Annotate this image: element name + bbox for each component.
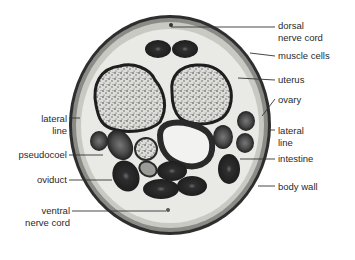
dorsal-organ bbox=[172, 40, 198, 58]
dorsal-organ bbox=[145, 40, 171, 58]
label-text: ventral bbox=[25, 205, 70, 217]
label-lateral-line-right: lateral line bbox=[278, 125, 304, 149]
label-text: line bbox=[278, 137, 304, 149]
label-oviduct: oviduct bbox=[37, 174, 67, 186]
label-text: intestine bbox=[278, 153, 313, 165]
dorsal-nerve-cord bbox=[169, 23, 173, 27]
label-pseudocoel: pseudocoel bbox=[18, 149, 67, 161]
label-body-wall: body wall bbox=[278, 181, 318, 193]
label-text: dorsal bbox=[278, 20, 323, 32]
label-text: pseudocoel bbox=[18, 149, 67, 161]
label-text: oviduct bbox=[37, 174, 67, 186]
label-text: muscle cells bbox=[278, 50, 330, 62]
label-text: nerve cord bbox=[25, 217, 70, 229]
label-text: uterus bbox=[278, 74, 304, 86]
label-ovary: ovary bbox=[278, 94, 301, 106]
label-text: lateral bbox=[41, 113, 67, 125]
label-uterus: uterus bbox=[278, 74, 304, 86]
label-text: ovary bbox=[278, 94, 301, 106]
label-text: line bbox=[41, 125, 67, 137]
label-muscle-cells: muscle cells bbox=[278, 50, 330, 62]
label-lateral-line-left: lateral line bbox=[41, 113, 67, 137]
label-intestine: intestine bbox=[278, 153, 313, 165]
label-dorsal-nerve-cord: dorsal nerve cord bbox=[278, 20, 323, 44]
intestine bbox=[160, 122, 212, 166]
label-text: nerve cord bbox=[278, 32, 323, 44]
label-text: lateral bbox=[278, 125, 304, 137]
uterus-right bbox=[172, 65, 232, 124]
label-ventral-nerve-cord: ventral nerve cord bbox=[25, 205, 70, 229]
ventral-nerve-cord bbox=[166, 208, 170, 212]
label-text: body wall bbox=[278, 181, 318, 193]
